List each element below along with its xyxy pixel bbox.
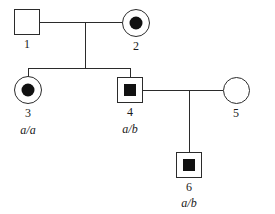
sibship-drop-gen2 [189, 90, 190, 152]
individual-2-symbol-female-affected [122, 9, 150, 37]
individual-3-symbol-female-affected [14, 76, 42, 104]
individual-2-affected-dot [130, 17, 143, 30]
individual-5-symbol-female-unaffected [223, 77, 250, 104]
individual-3-affected-dot [22, 84, 35, 97]
individual-4-affected-box [124, 84, 136, 96]
individual-6-id-label: 6 [169, 181, 209, 194]
individual-3-id-label: 3 [8, 107, 48, 120]
individual-6-symbol-male-affected [176, 152, 202, 178]
individual-4-genotype-label: a/b [110, 123, 150, 136]
individual-6-genotype-label: a/b [169, 197, 209, 210]
sibship-bar-gen2 [28, 68, 130, 69]
individual-2-id-label: 2 [116, 40, 156, 53]
individual-1-symbol-male-unaffected [14, 9, 40, 35]
individual-3-genotype-label: a/a [8, 124, 48, 137]
mating-line-4-5 [143, 90, 223, 91]
pedigree-diagram: 1 2 3 a/a 4 a/b 5 6 a/b [0, 0, 275, 214]
sibship-drop-gen1 [85, 22, 86, 68]
individual-1-id-label: 1 [7, 38, 47, 51]
individual-6-affected-box [183, 159, 195, 171]
individual-5-id-label: 5 [216, 107, 256, 120]
mating-line-1-2 [40, 22, 122, 23]
individual-4-id-label: 4 [110, 106, 150, 119]
individual-4-symbol-male-affected [117, 77, 143, 103]
